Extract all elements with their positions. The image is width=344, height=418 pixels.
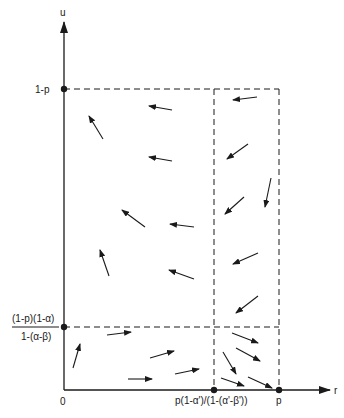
vector-arrow-icon xyxy=(122,210,145,227)
vector-arrow-icon xyxy=(225,197,244,214)
point-1-p xyxy=(61,86,67,92)
origin-label: 0 xyxy=(60,396,66,407)
y-tick-1-p: 1-p xyxy=(35,84,50,95)
vector-arrow-icon xyxy=(100,250,109,276)
point-p xyxy=(276,387,282,393)
x-tick-p: p xyxy=(276,395,282,406)
vector-arrow-icon xyxy=(150,351,174,358)
x-axis-label: r xyxy=(334,385,338,396)
y-tick-numerator: (1-p)(1-α) xyxy=(12,313,54,324)
y-axis-label: u xyxy=(60,7,66,18)
vector-arrow-icon xyxy=(169,270,194,279)
vector-arrow-icon xyxy=(248,377,272,388)
vector-arrow-icon xyxy=(221,378,244,386)
vector-arrow-icon xyxy=(265,178,271,207)
y-tick-denominator: 1-(α-β) xyxy=(21,331,51,342)
vector-arrow-icon xyxy=(233,97,257,100)
point-r-star xyxy=(211,387,217,393)
vector-arrow-icon xyxy=(233,253,258,264)
point-u-star xyxy=(61,324,67,330)
x-tick-r-star: p(1-α')/(1-(α'-β')) xyxy=(175,395,247,406)
vector-arrow-icon xyxy=(149,157,172,161)
vector-arrow-icon xyxy=(170,224,194,227)
vector-arrow-icon xyxy=(232,333,258,343)
vector-field xyxy=(73,97,272,388)
vector-arrow-icon xyxy=(149,106,172,110)
vector-arrow-icon xyxy=(223,352,236,374)
vector-arrow-icon xyxy=(89,116,103,139)
vector-arrow-icon xyxy=(236,296,258,313)
vector-arrow-icon xyxy=(236,348,260,361)
vector-arrow-icon xyxy=(227,144,248,159)
vector-arrow-icon xyxy=(73,344,80,368)
phase-diagram: u r 0 1-p (1-p)(1-α) 1-(α-β) p(1-α')/(1-… xyxy=(0,0,344,418)
vector-arrow-icon xyxy=(107,332,131,335)
vector-arrow-icon xyxy=(175,369,199,374)
